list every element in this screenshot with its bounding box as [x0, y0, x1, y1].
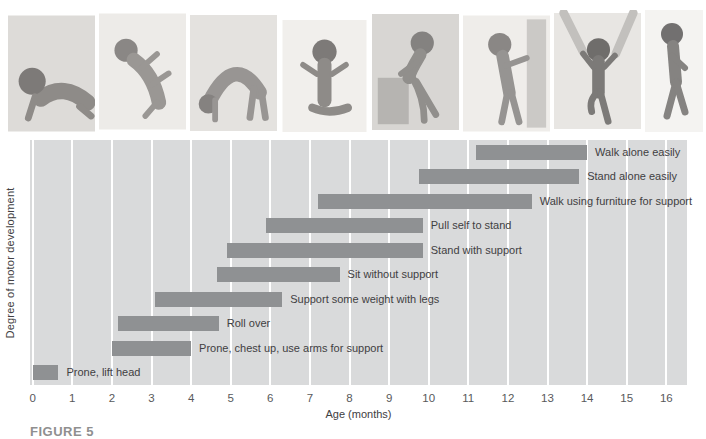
photo-sitting-image	[281, 20, 368, 132]
gridline-month-9	[388, 140, 390, 385]
gridline-month-1	[71, 140, 73, 385]
bar-walk-using-furniture-for-support	[318, 194, 532, 209]
baby-photos-row	[8, 10, 704, 132]
gridline-month-0	[32, 140, 34, 385]
x-tick-15: 15	[620, 392, 633, 404]
photo-crawl-bottom-up-image	[190, 14, 277, 132]
x-tick-6: 6	[267, 392, 273, 404]
photo-walk-alone-image	[645, 10, 703, 132]
bar-pull-self-to-stand	[266, 218, 422, 233]
bar-sit-without-support	[217, 267, 340, 282]
bar-stand-with-support	[227, 243, 423, 258]
x-axis-title: Age (months)	[30, 408, 687, 420]
x-tick-7: 7	[307, 392, 313, 404]
x-tick-10: 10	[422, 392, 435, 404]
x-tick-11: 11	[462, 392, 474, 404]
x-tick-4: 4	[188, 392, 194, 404]
x-tick-8: 8	[346, 392, 352, 404]
bar-label-walk-using-furniture-for-support: Walk using furniture for support	[540, 194, 692, 209]
bar-label-sit-without-support: Sit without support	[348, 267, 439, 282]
figure-caption: FIGURE 5	[30, 424, 94, 439]
bar-label-prone-chest-up-use-arms-for-support: Prone, chest up, use arms for support	[199, 341, 383, 356]
x-tick-14: 14	[581, 392, 594, 404]
plot-area: Walk alone easilyStand alone easilyWalk …	[30, 140, 687, 385]
photo-prone-lift-head-image	[8, 15, 95, 132]
x-tick-13: 13	[541, 392, 554, 404]
bar-prone-chest-up-use-arms-for-support	[112, 341, 191, 356]
x-tick-2: 2	[109, 392, 115, 404]
x-tick-16: 16	[660, 392, 673, 404]
bar-label-stand-with-support: Stand with support	[431, 243, 522, 258]
bar-label-pull-self-to-stand: Pull self to stand	[431, 218, 512, 233]
bar-prone-lift-head	[33, 365, 59, 380]
photo-roll-over-image	[99, 11, 186, 132]
y-axis-title-text: Degree of motor development	[4, 187, 16, 338]
bar-support-some-weight-with-legs	[155, 292, 282, 307]
bar-label-walk-alone-easily: Walk alone easily	[595, 145, 680, 160]
bar-label-roll-over: Roll over	[227, 316, 270, 331]
photo-pull-to-stand-image	[372, 12, 459, 132]
x-axis-ticks: 012345678910111213141516	[0, 392, 706, 406]
bar-label-support-some-weight-with-legs: Support some weight with legs	[290, 292, 439, 307]
x-tick-0: 0	[29, 392, 35, 404]
bar-stand-alone-easily	[419, 169, 579, 184]
x-tick-9: 9	[386, 392, 392, 404]
bar-walk-alone-easily	[476, 145, 587, 160]
x-tick-12: 12	[501, 392, 514, 404]
y-axis-title: Degree of motor development	[1, 140, 19, 385]
x-tick-3: 3	[148, 392, 154, 404]
bar-roll-over	[118, 316, 219, 331]
bar-label-prone-lift-head: Prone, lift head	[66, 365, 140, 380]
bar-label-stand-alone-easily: Stand alone easily	[587, 169, 677, 184]
photo-stand-with-support-image	[463, 15, 550, 132]
photo-walk-with-help-image	[554, 10, 641, 132]
x-tick-5: 5	[227, 392, 233, 404]
x-tick-1: 1	[69, 392, 75, 404]
